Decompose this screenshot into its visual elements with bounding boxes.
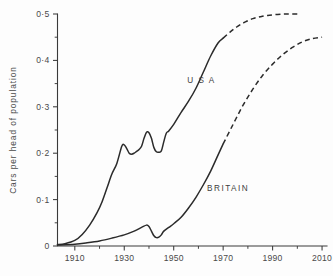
- x-tick-label: 1990: [263, 253, 283, 263]
- y-axis-title: Cars per head of population: [8, 66, 18, 194]
- y-tick-label: 0·2: [36, 148, 49, 158]
- y-tick-label: 0: [44, 241, 49, 251]
- x-tick-label: 1970: [213, 253, 233, 263]
- y-tick-label: 0·1: [36, 195, 49, 205]
- chart-tick-labels: 00·10·20·30·40·5191019301950197019902010: [36, 9, 332, 263]
- series-projection-usa: [223, 14, 297, 38]
- series-line-usa: [58, 38, 224, 244]
- y-tick-label: 0·3: [36, 102, 49, 112]
- chart-y-axis-title: Cars per head of population: [8, 66, 18, 194]
- chart-container: 00·10·20·30·40·5191019301950197019902010…: [0, 0, 333, 276]
- y-tick-label: 0·5: [36, 9, 49, 19]
- x-tick-label: 1930: [114, 253, 134, 263]
- chart-series-lines: [58, 14, 323, 245]
- x-tick-label: 1910: [65, 253, 85, 263]
- chart-series-labels: U S ABRITAIN: [187, 76, 249, 194]
- chart-tick-marks: [53, 14, 322, 251]
- line-chart: 00·10·20·30·40·5191019301950197019902010…: [0, 0, 333, 276]
- series-label-usa: U S A: [187, 76, 215, 85]
- y-tick-label: 0·4: [36, 55, 49, 65]
- series-line-britain: [58, 144, 224, 245]
- x-tick-label: 2010: [312, 253, 332, 263]
- series-projection-britain: [223, 37, 322, 144]
- x-tick-label: 1950: [164, 253, 184, 263]
- series-label-britain: BRITAIN: [207, 184, 249, 193]
